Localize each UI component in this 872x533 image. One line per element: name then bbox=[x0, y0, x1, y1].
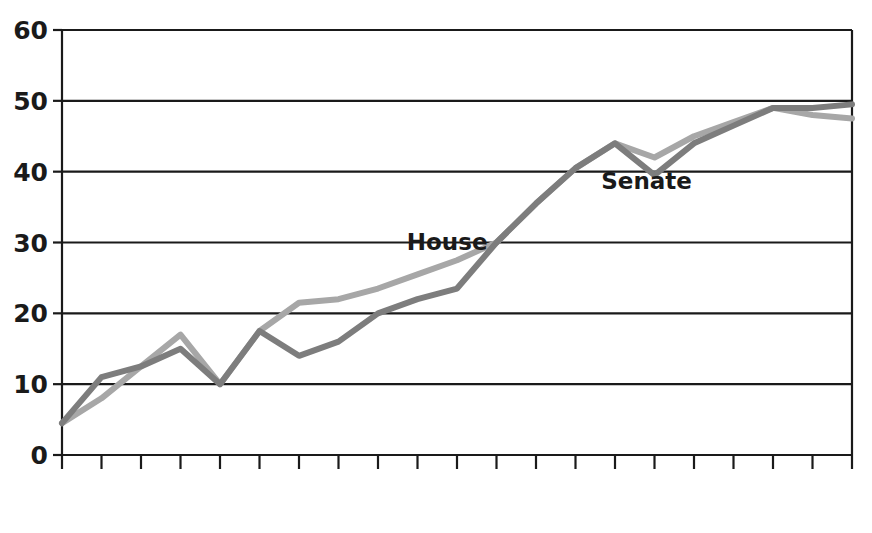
y-tick-label-30: 30 bbox=[13, 229, 48, 258]
y-tick-label-20: 20 bbox=[13, 299, 48, 328]
annotation-senate: Senate bbox=[601, 168, 692, 194]
series-line-house bbox=[62, 108, 852, 423]
y-tick-label-60: 60 bbox=[13, 16, 48, 45]
chart-container: 0102030405060 19601964196819721976198019… bbox=[0, 0, 872, 533]
y-tick-label-10: 10 bbox=[13, 370, 48, 399]
y-tick-label-0: 0 bbox=[31, 441, 48, 470]
y-tick-label-50: 50 bbox=[13, 87, 48, 116]
series-line-senate bbox=[62, 104, 852, 423]
data-series-lines bbox=[62, 104, 852, 423]
y-axis-tick-labels: 0102030405060 bbox=[13, 16, 62, 470]
y-tick-label-40: 40 bbox=[13, 158, 48, 187]
annotation-house: House bbox=[407, 229, 488, 255]
line-chart: 0102030405060 19601964196819721976198019… bbox=[0, 0, 872, 533]
x-axis-ticks bbox=[62, 455, 852, 469]
